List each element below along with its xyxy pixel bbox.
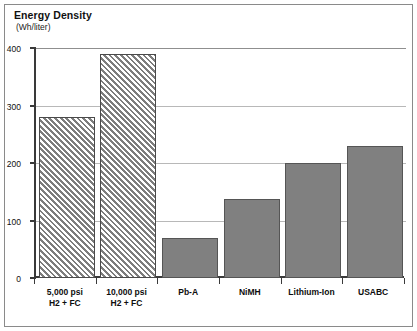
bar-usabc[interactable] <box>347 146 403 278</box>
x-axis-tick <box>281 278 282 284</box>
y-axis-tick-label: 100 <box>7 217 21 226</box>
bars-group <box>36 48 406 278</box>
bar-lithium-ion[interactable] <box>285 163 341 278</box>
x-axis-label-line1: Lithium-Ion <box>288 287 334 297</box>
bar-slot <box>159 48 221 278</box>
x-axis-tick <box>34 278 35 284</box>
y-axis-tick-label: 200 <box>7 160 21 169</box>
x-axis-label: Lithium-Ion <box>281 287 343 298</box>
x-axis-tick <box>219 278 220 284</box>
y-axis-tick-label: 400 <box>7 45 21 54</box>
x-axis-label: NiMH <box>219 287 281 298</box>
x-axis-tick <box>157 278 158 284</box>
energy-density-bar-chart-figure: Energy Density (Wh/liter) 0100200300400 … <box>0 0 417 331</box>
chart-title-block: Energy Density (Wh/liter) <box>14 9 274 33</box>
bar-slot <box>221 48 283 278</box>
y-axis-tick-label: 300 <box>7 102 21 111</box>
plot-area: 0100200300400 <box>34 48 404 278</box>
bar-10-000-psi[interactable] <box>100 54 156 278</box>
x-axis-label-line1: NiMH <box>239 287 261 297</box>
chart-units-subtitle: (Wh/liter) <box>16 22 274 33</box>
x-axis-tick <box>96 278 97 284</box>
x-axis-label: 10,000 psiH2 + FC <box>96 287 158 309</box>
x-axis-tick <box>342 278 343 284</box>
x-axis-label: Pb-A <box>157 287 219 298</box>
x-axis-label-line1: 10,000 psi <box>106 287 147 297</box>
x-axis-tick-end <box>404 278 405 284</box>
x-axis-label-line1: Pb-A <box>178 287 198 297</box>
x-axis-label: USABC <box>342 287 404 298</box>
bar-slot <box>36 48 98 278</box>
x-axis-label-line1: 5,000 psi <box>47 287 83 297</box>
bar-5-000-psi[interactable] <box>39 117 95 278</box>
bar-slot <box>283 48 345 278</box>
bar-slot <box>344 48 406 278</box>
bar-pb-a[interactable] <box>162 238 218 278</box>
bar-nimh[interactable] <box>224 199 280 278</box>
x-axis-label-line2: H2 + FC <box>96 298 158 309</box>
x-axis-label-line1: USABC <box>358 287 388 297</box>
x-axis-labels-group: 5,000 psiH2 + FC10,000 psiH2 + FCPb-ANiM… <box>34 278 404 326</box>
chart-title: Energy Density <box>14 9 274 21</box>
y-axis-tick-label: 0 <box>16 275 21 284</box>
x-axis-label: 5,000 psiH2 + FC <box>34 287 96 309</box>
x-axis-label-line2: H2 + FC <box>34 298 96 309</box>
bar-slot <box>98 48 160 278</box>
